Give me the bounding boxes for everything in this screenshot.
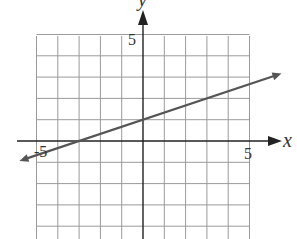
plotted-line [19,73,281,162]
x-tick-label-5: 5 [244,145,252,162]
x-axis-label: x [282,129,292,151]
x-tick-label-neg5: -5 [34,143,47,160]
y-axis-label: y [136,0,147,11]
y-tick-label-5: 5 [128,31,136,48]
coordinate-plane: x y -5 5 5 [0,0,297,239]
